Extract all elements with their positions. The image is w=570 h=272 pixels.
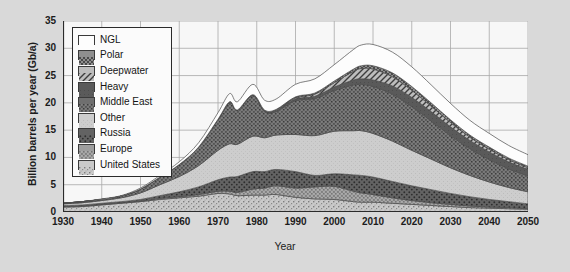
y-tick-15: 15 (30, 124, 56, 135)
legend-label-united-states: United States (100, 160, 160, 170)
legend-swatch-deepwater (78, 66, 95, 76)
legend-item-ngl[interactable]: NGL (78, 32, 167, 48)
legend-item-europe[interactable]: Europe (78, 141, 167, 157)
legend-swatch-middle-east (78, 97, 95, 107)
x-tick-2010: 2010 (353, 216, 393, 227)
x-tick-2050: 2050 (508, 216, 548, 227)
y-tick-35: 35 (30, 15, 56, 26)
y-tick-25: 25 (30, 70, 56, 81)
legend-swatch-europe (78, 144, 95, 154)
legend-label-heavy: Heavy (100, 82, 128, 92)
legend-label-middle-east: Middle East (100, 97, 152, 107)
x-tick-1960: 1960 (159, 216, 199, 227)
x-tick-1970: 1970 (198, 216, 238, 227)
legend-swatch-polar (78, 50, 95, 60)
x-tick-1940: 1940 (82, 216, 122, 227)
chart-legend: NGLPolarDeepwaterHeavyMiddle EastOtherRu… (72, 27, 172, 177)
legend-item-russia[interactable]: Russia (78, 126, 167, 142)
peak-oil-production-chart: Billion barrels per year (Gb/a) Year 051… (0, 0, 570, 272)
x-tick-2040: 2040 (469, 216, 509, 227)
legend-item-deepwater[interactable]: Deepwater (78, 63, 167, 79)
x-tick-2000: 2000 (314, 216, 354, 227)
x-tick-1930: 1930 (43, 216, 83, 227)
x-tick-1990: 1990 (276, 216, 316, 227)
legend-swatch-other (78, 113, 95, 123)
legend-swatch-ngl (78, 35, 95, 45)
x-tick-1980: 1980 (237, 216, 277, 227)
y-tick-30: 30 (30, 42, 56, 53)
legend-swatch-united-states (78, 160, 95, 170)
legend-item-united-states[interactable]: United States (78, 157, 167, 173)
legend-swatch-heavy (78, 82, 95, 92)
legend-item-middle-east[interactable]: Middle East (78, 94, 167, 110)
y-tick-10: 10 (30, 151, 56, 162)
legend-label-europe: Europe (100, 144, 132, 154)
x-tick-1950: 1950 (121, 216, 161, 227)
legend-item-polar[interactable]: Polar (78, 48, 167, 64)
x-axis-title: Year (0, 240, 570, 252)
legend-swatch-russia (78, 128, 95, 138)
y-axis-title: Billion barrels per year (Gb/a) (26, 4, 38, 224)
x-tick-2030: 2030 (431, 216, 471, 227)
legend-label-polar: Polar (100, 50, 123, 60)
legend-item-other[interactable]: Other (78, 110, 167, 126)
x-tick-2020: 2020 (392, 216, 432, 227)
legend-item-heavy[interactable]: Heavy (78, 79, 167, 95)
legend-label-russia: Russia (100, 128, 131, 138)
y-tick-5: 5 (30, 179, 56, 190)
y-tick-20: 20 (30, 97, 56, 108)
legend-label-other: Other (100, 113, 125, 123)
legend-label-ngl: NGL (100, 35, 121, 45)
legend-label-deepwater: Deepwater (100, 66, 148, 76)
